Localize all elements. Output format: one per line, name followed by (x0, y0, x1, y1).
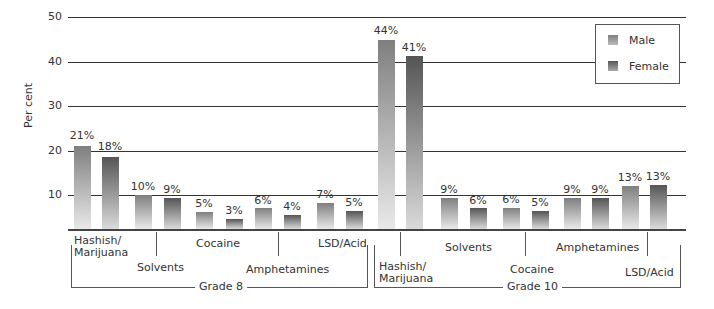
value-label: 13% (638, 170, 678, 183)
bar-g8-amphetamines-female (284, 215, 301, 229)
bar-g8-lsd-female (346, 211, 363, 229)
bar-g10-lsd-female (650, 185, 667, 229)
category-label-g8-amphetamines: Amphetamines (246, 264, 329, 276)
value-label: 4% (272, 200, 312, 213)
gridline-30 (68, 106, 686, 107)
y-tick-40: 40 (40, 55, 62, 68)
bar-g8-solvents-male (135, 195, 152, 229)
y-tick-30: 30 (40, 99, 62, 112)
category-label-g10-hashish: Hashish/Marijuana (379, 261, 433, 285)
bracket-right (680, 245, 681, 288)
x-axis-line (68, 229, 686, 231)
bar-g10-lsd-male (622, 186, 639, 229)
divider (400, 232, 401, 256)
value-label: 9% (152, 183, 192, 196)
bar-g8-lsd-male (317, 203, 334, 229)
legend: Male Female (595, 24, 680, 84)
value-label: 41% (394, 41, 434, 54)
male-swatch-icon (608, 35, 618, 45)
group-label-grade-8: Grade 8 (195, 280, 247, 293)
y-axis-label: Per cent (22, 83, 35, 128)
bar-g8-hashish-male (74, 146, 91, 229)
category-label-g8-hashish: Hashish/Marijuana (74, 235, 128, 259)
legend-item-female: Female (608, 60, 669, 73)
category-label-g10-solvents: Solvents (445, 242, 492, 254)
bar-g10-solvents-female (470, 208, 487, 229)
category-label-g10-amphetamines: Amphetamines (556, 242, 639, 254)
bracket-left (374, 245, 375, 288)
divider (156, 232, 157, 256)
bar-g10-cocaine-male (503, 208, 520, 229)
bracket-right (367, 245, 368, 288)
bar-g10-cocaine-female (532, 211, 549, 229)
bar-g10-hashish-female (406, 56, 423, 229)
bar-g8-solvents-female (164, 198, 181, 229)
value-label: 5% (520, 196, 560, 209)
value-label: 44% (366, 24, 406, 37)
value-label: 18% (90, 140, 130, 153)
legend-item-male: Male (608, 34, 655, 47)
gridline-20 (68, 151, 686, 152)
female-swatch-icon (608, 61, 618, 71)
bar-chart: Per cent 50 40 30 20 10 21% 18% 10% 9% 5… (0, 0, 714, 309)
value-label: 5% (334, 196, 374, 209)
divider (278, 232, 279, 256)
y-tick-10: 10 (40, 188, 62, 201)
divider (647, 232, 648, 256)
bar-g8-cocaine-female (226, 219, 243, 229)
bracket-left (71, 245, 72, 288)
bar-g8-cocaine-male (196, 212, 213, 229)
y-tick-20: 20 (40, 144, 62, 157)
bar-g8-hashish-female (102, 157, 119, 229)
bar-g10-amphetamines-male (564, 198, 581, 229)
divider (525, 232, 526, 256)
y-tick-50: 50 (40, 10, 62, 23)
category-label-g10-cocaine: Cocaine (510, 264, 554, 276)
category-label-g10-lsd: LSD/Acid (625, 267, 674, 279)
value-label: 9% (580, 183, 620, 196)
bar-g8-amphetamines-male (255, 208, 272, 229)
bar-g10-solvents-male (441, 198, 458, 229)
bar-g10-hashish-male (378, 40, 395, 229)
gridline-50 (68, 17, 686, 18)
category-label-g8-lsd: LSD/Acid (318, 238, 367, 250)
category-label-g8-cocaine: Cocaine (196, 238, 240, 250)
gridline-40 (68, 62, 686, 63)
bar-g10-amphetamines-female (592, 198, 609, 229)
group-label-grade-10: Grade 10 (503, 280, 562, 293)
category-label-g8-solvents: Solvents (137, 262, 184, 274)
